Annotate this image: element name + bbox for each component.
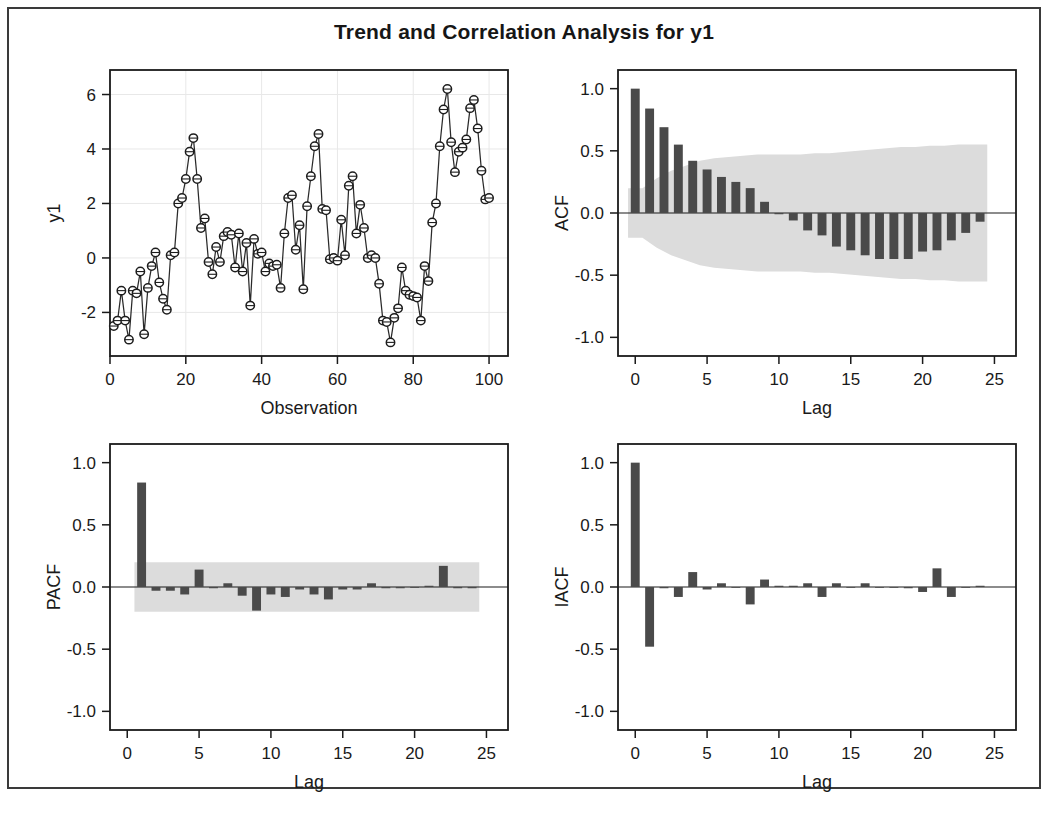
y-axis-tick-label: 6	[87, 86, 96, 105]
correlation-bar	[660, 587, 669, 588]
correlation-bar	[338, 587, 347, 589]
x-axis-tick-label: 10	[261, 744, 280, 763]
data-point	[144, 284, 152, 292]
x-axis-tick-label: 20	[913, 370, 932, 389]
correlation-bar	[933, 568, 942, 587]
correlation-bar	[310, 587, 319, 594]
correlation-bar	[961, 587, 970, 588]
data-point	[295, 221, 303, 229]
correlation-bar	[803, 583, 812, 587]
correlation-bar	[688, 572, 697, 587]
data-point	[182, 175, 190, 183]
data-point	[208, 270, 216, 278]
x-axis-label: Lag	[802, 398, 832, 418]
correlation-bar	[353, 587, 362, 589]
correlation-bar	[137, 483, 146, 587]
correlation-bar	[731, 182, 740, 213]
data-point	[216, 258, 224, 266]
correlation-bar	[410, 587, 419, 588]
page-title: Trend and Correlation Analysis for y1	[0, 20, 1048, 44]
correlation-bar	[889, 213, 898, 259]
correlation-bar	[961, 213, 970, 233]
correlation-bar	[861, 583, 870, 587]
correlation-bar	[832, 213, 841, 247]
x-axis-tick-label: 20	[913, 744, 932, 763]
correlation-bar	[731, 587, 740, 588]
y-axis-tick-label: -1.0	[67, 702, 96, 721]
correlation-bar	[846, 213, 855, 250]
data-point	[417, 316, 425, 324]
correlation-bar	[367, 583, 376, 587]
y-axis-tick-label: -0.5	[67, 640, 96, 659]
x-axis-tick-label: 0	[123, 744, 132, 763]
data-point	[246, 301, 254, 309]
data-point	[398, 263, 406, 271]
data-point	[345, 182, 353, 190]
correlation-bar	[846, 587, 855, 588]
y-axis-tick-label: 2	[87, 194, 96, 213]
correlation-bar	[818, 587, 827, 597]
data-point	[352, 229, 360, 237]
panel-acf: 0510152025-1.0-0.50.00.51.0LagACF	[548, 58, 1028, 423]
y-axis-tick-label: 1.0	[72, 454, 96, 473]
x-axis-tick-label: 25	[985, 744, 1004, 763]
data-point	[250, 235, 258, 243]
correlation-bar	[195, 570, 204, 587]
x-axis-label: Lag	[294, 772, 324, 792]
x-axis-tick-label: 80	[404, 370, 423, 389]
data-point	[420, 262, 428, 270]
y-axis-tick-label: -2	[81, 303, 96, 322]
y-axis-tick-label: -1.0	[575, 328, 604, 347]
correlation-bar	[223, 583, 232, 587]
data-point	[356, 201, 364, 209]
correlation-bar	[918, 213, 927, 252]
data-point	[360, 224, 368, 232]
data-point	[238, 267, 246, 275]
correlation-bar	[674, 145, 683, 213]
data-point	[288, 191, 296, 199]
correlation-bar	[976, 586, 985, 587]
x-axis-tick-label: 25	[477, 744, 496, 763]
data-point	[443, 85, 451, 93]
correlation-bar	[439, 566, 448, 587]
x-axis-tick-label: 5	[702, 370, 711, 389]
correlation-bar	[918, 587, 927, 592]
panel-time-series: 020406080100-20246Observationy1	[40, 58, 520, 423]
data-point	[151, 248, 159, 256]
data-point	[299, 285, 307, 293]
iacf-chart: 0510152025-1.0-0.50.00.51.0LagIACF	[548, 432, 1028, 792]
correlation-bar	[789, 586, 798, 587]
x-axis-tick-label: 0	[105, 370, 114, 389]
correlation-bar	[660, 127, 669, 213]
data-point	[121, 316, 129, 324]
correlation-bar	[861, 213, 870, 255]
data-point	[470, 96, 478, 104]
correlation-bar	[425, 586, 434, 587]
correlation-bar	[295, 587, 304, 589]
data-point	[428, 218, 436, 226]
data-point	[322, 206, 330, 214]
correlation-bar	[760, 580, 769, 587]
y-axis-tick-label: 0	[87, 249, 96, 268]
y-axis-tick-label: 0.5	[580, 516, 604, 535]
x-axis-tick-label: 100	[475, 370, 503, 389]
y-axis-tick-label: 1.0	[580, 454, 604, 473]
correlation-bar	[252, 587, 261, 611]
data-point	[333, 256, 341, 264]
x-axis-tick-label: 20	[405, 744, 424, 763]
x-axis-tick-label: 10	[769, 744, 788, 763]
correlation-bar	[717, 177, 726, 213]
data-point	[451, 168, 459, 176]
data-point	[307, 172, 315, 180]
acf-chart: 0510152025-1.0-0.50.00.51.0LagACF	[548, 58, 1028, 423]
data-point	[424, 277, 432, 285]
correlation-bar	[774, 586, 783, 587]
data-point	[204, 258, 212, 266]
data-point	[163, 305, 171, 313]
correlation-bar	[209, 587, 218, 588]
y-axis-tick-label: 0.5	[580, 142, 604, 161]
y-axis-tick-label: 4	[87, 140, 96, 159]
data-point	[273, 261, 281, 269]
x-axis-tick-label: 5	[194, 744, 203, 763]
data-point	[466, 104, 474, 112]
